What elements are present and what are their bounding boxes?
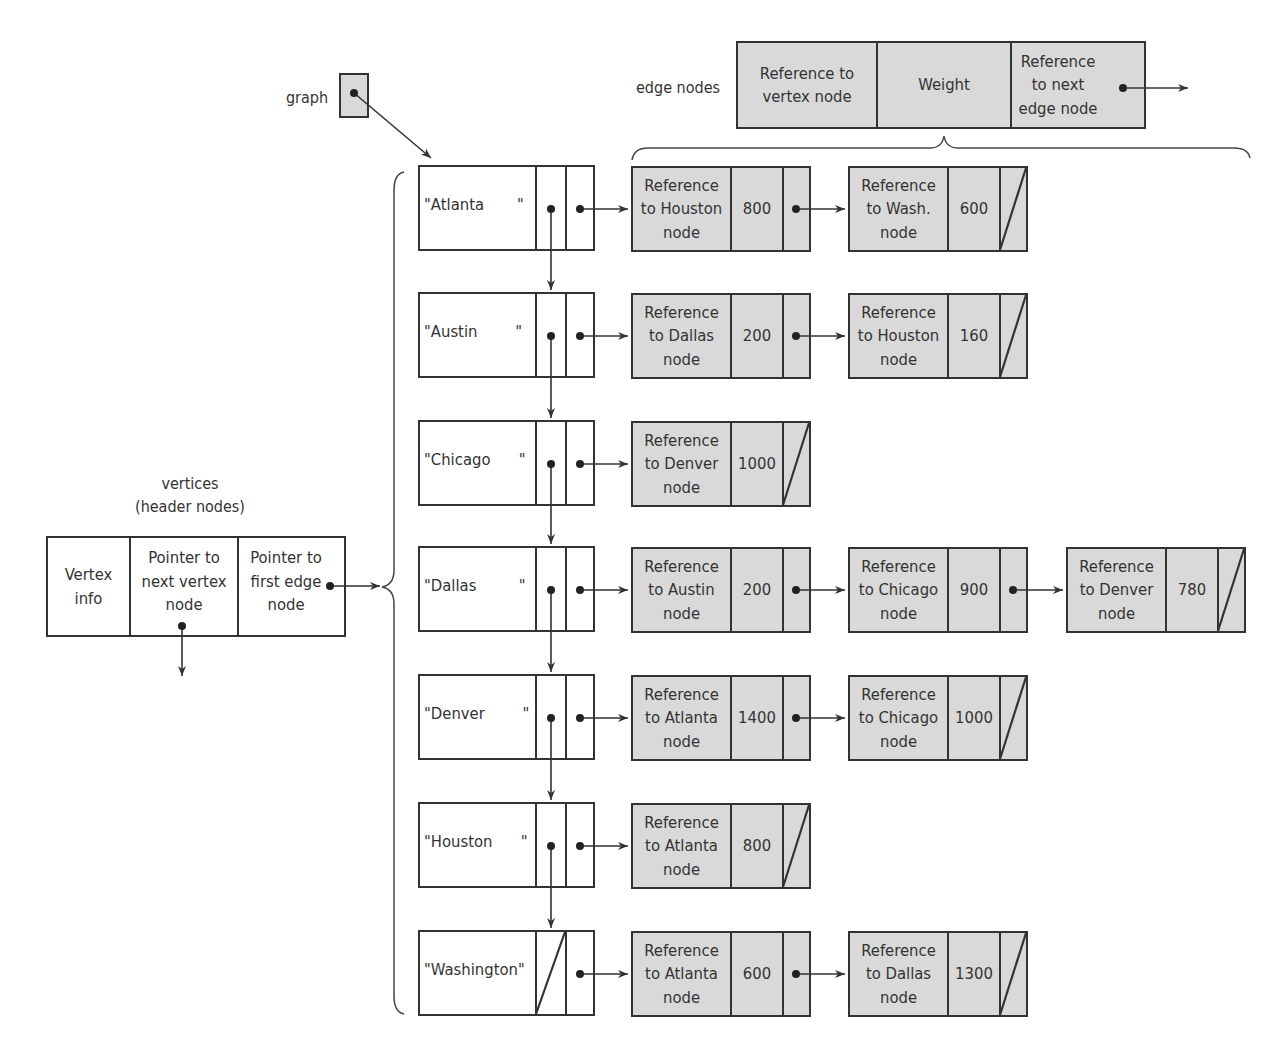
vertex-node: "Austin "	[418, 292, 595, 378]
edge-next-pointer	[782, 933, 809, 1015]
edge-node: Reference to Atlanta node600	[631, 931, 811, 1017]
vertex-name: "Chicago "	[420, 422, 535, 504]
legend-vertex-node: Vertex info Pointer to next vertex node …	[46, 536, 346, 637]
edge-next-pointer	[782, 549, 809, 631]
edge-next-pointer	[999, 549, 1026, 631]
legend-vertex-first-edge-field: Pointer to first edge node	[237, 538, 344, 635]
graph-label: graph	[282, 86, 332, 109]
edge-next-pointer	[782, 423, 809, 505]
edge-vertex-ref: Reference to Atlanta node	[633, 805, 730, 887]
edge-weight: 1000	[730, 423, 782, 505]
first-edge-pointer	[565, 167, 593, 249]
edge-weight: 160	[947, 295, 999, 377]
vertex-node: "Atlanta "	[418, 165, 595, 251]
legend-vertex-info-field: Vertex info	[48, 538, 129, 635]
edge-next-pointer	[782, 168, 809, 250]
edge-node: Reference to Atlanta node800	[631, 803, 811, 889]
edge-next-pointer	[782, 805, 809, 887]
legend-edge-next-field: Reference to next edge node	[1010, 43, 1144, 127]
next-vertex-pointer	[535, 548, 564, 630]
edge-node: Reference to Chicago node900	[848, 547, 1028, 633]
next-vertex-pointer	[535, 422, 564, 504]
edge-node: Reference to Denver node1000	[631, 421, 811, 507]
edge-vertex-ref: Reference to Chicago node	[850, 677, 947, 759]
edge-node: Reference to Chicago node1000	[848, 675, 1028, 761]
edge-node: Reference to Houston node800	[631, 166, 811, 252]
edge-weight: 800	[730, 805, 782, 887]
edge-weight: 800	[730, 168, 782, 250]
edge-weight: 1000	[947, 677, 999, 759]
edge-next-pointer	[782, 677, 809, 759]
legend-edge-weight-field: Weight	[876, 43, 1010, 127]
vertex-node: "Denver "	[418, 674, 595, 760]
legend-edge-next-text: Reference to next edge node	[1016, 50, 1100, 121]
edge-node: Reference to Dallas node200	[631, 293, 811, 379]
vertices-label-line2: (header nodes)	[120, 495, 260, 518]
edge-weight: 200	[730, 295, 782, 377]
edge-node: Reference to Dallas node1300	[848, 931, 1028, 1017]
vertex-name: "Washington"	[420, 932, 535, 1014]
edge-weight: 200	[730, 549, 782, 631]
edge-node: Reference to Austin node200	[631, 547, 811, 633]
first-edge-pointer	[565, 422, 593, 504]
next-vertex-pointer	[535, 804, 564, 886]
edge-weight: 780	[1165, 549, 1217, 631]
first-edge-pointer	[565, 548, 593, 630]
vertex-name: "Houston "	[420, 804, 535, 886]
edge-vertex-ref: Reference to Dallas node	[850, 933, 947, 1015]
legend-vertex-next-text: Pointer to next vertex node	[131, 546, 237, 617]
edge-nodes-brace	[632, 136, 1250, 160]
edge-vertex-ref: Reference to Houston node	[633, 168, 730, 250]
edge-vertex-ref: Reference to Houston node	[850, 295, 947, 377]
graph-pointer-box	[339, 73, 369, 118]
edge-vertex-ref: Reference to Atlanta node	[633, 933, 730, 1015]
edge-weight: 600	[730, 933, 782, 1015]
edge-weight: 600	[947, 168, 999, 250]
vertex-node: "Dallas "	[418, 546, 595, 632]
vertex-node: "Chicago "	[418, 420, 595, 506]
edge-vertex-ref: Reference to Denver node	[633, 423, 730, 505]
legend-vertex-next-field: Pointer to next vertex node	[129, 538, 237, 635]
vertices-label-line1: vertices	[120, 472, 260, 495]
edge-weight: 900	[947, 549, 999, 631]
legend-edge-node: Reference to vertex node Weight Referenc…	[736, 41, 1146, 129]
connector-layer	[0, 0, 1287, 1059]
legend-edge-ref-field: Reference to vertex node	[738, 43, 876, 127]
first-edge-pointer	[565, 294, 593, 376]
edge-vertex-ref: Reference to Austin node	[633, 549, 730, 631]
edge-next-pointer	[1217, 549, 1244, 631]
first-edge-pointer	[565, 676, 593, 758]
next-vertex-pointer	[535, 676, 564, 758]
vertex-name: "Austin "	[420, 294, 535, 376]
first-edge-pointer	[565, 932, 593, 1014]
vertices-label: vertices (header nodes)	[120, 472, 260, 518]
vertex-name: "Denver "	[420, 676, 535, 758]
next-vertex-pointer	[535, 167, 564, 249]
edge-node: Reference to Denver node780	[1066, 547, 1246, 633]
vertices-brace	[382, 172, 404, 1014]
edge-node: Reference to Houston node160	[848, 293, 1028, 379]
edge-weight: 1400	[730, 677, 782, 759]
edge-vertex-ref: Reference to Chicago node	[850, 549, 947, 631]
edge-vertex-ref: Reference to Atlanta node	[633, 677, 730, 759]
edge-vertex-ref: Reference to Dallas node	[633, 295, 730, 377]
vertex-name: "Dallas "	[420, 548, 535, 630]
edge-next-pointer	[999, 168, 1026, 250]
edge-node: Reference to Atlanta node1400	[631, 675, 811, 761]
edge-next-pointer	[999, 295, 1026, 377]
edge-weight: 1300	[947, 933, 999, 1015]
next-vertex-pointer	[535, 294, 564, 376]
edge-next-pointer	[999, 933, 1026, 1015]
edge-node: Reference to Wash. node600	[848, 166, 1028, 252]
vertex-node: "Washington"	[418, 930, 595, 1016]
edge-vertex-ref: Reference to Wash. node	[850, 168, 947, 250]
vertex-node: "Houston "	[418, 802, 595, 888]
legend-vertex-first-edge-text: Pointer to first edge node	[239, 546, 333, 617]
edge-next-pointer	[782, 295, 809, 377]
edge-vertex-ref: Reference to Denver node	[1068, 549, 1165, 631]
vertex-name: "Atlanta "	[420, 167, 535, 249]
next-vertex-pointer	[535, 932, 564, 1014]
edge-next-pointer	[999, 677, 1026, 759]
edge-nodes-label: edge nodes	[628, 76, 728, 99]
first-edge-pointer	[565, 804, 593, 886]
